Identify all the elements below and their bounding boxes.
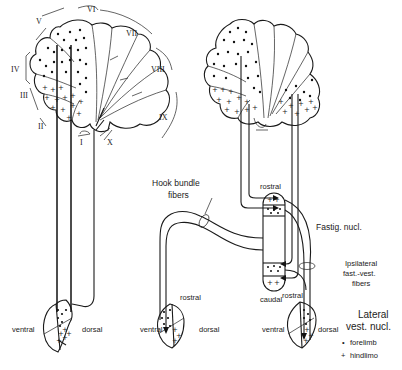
svg-text:+: +	[274, 279, 280, 287]
svg-text:+: +	[294, 110, 300, 118]
legend-hindlimb-label: hindlimo	[350, 351, 378, 360]
svg-text:+: +	[278, 98, 284, 106]
middle-nucleus-rostral-label: rostral	[180, 293, 201, 302]
svg-text:+: +	[66, 330, 72, 338]
lobule-IV-label: IV	[11, 65, 20, 74]
svg-text:+: +	[288, 102, 294, 110]
lateral-vest-label-line2: vest. nucl.	[346, 321, 391, 332]
right-nucleus-dorsal-label: dorsal	[318, 325, 339, 334]
svg-text:+: +	[44, 94, 50, 102]
lobule-VII-label: VII	[126, 29, 137, 38]
svg-text:+: +	[312, 104, 318, 112]
figure: ++ ++ ++ ++ ++ ++ + V VI VII VIII IX IV …	[0, 0, 402, 370]
middle-vestibular-nucleus: ++ + rostral ventral dorsal	[140, 293, 220, 348]
hook-bundle-label-line2: fibers	[168, 190, 189, 200]
fastigial-nucleus: ++ ++ rostral caudal Fastig. nucl.	[260, 182, 362, 304]
svg-text:+: +	[172, 337, 178, 345]
lobule-III-label: III	[20, 91, 28, 100]
svg-text:+: +	[234, 108, 240, 116]
lobule-X-label: X	[107, 138, 113, 147]
ipsilateral-label-line1: Ipsilateral	[345, 259, 377, 268]
legend-hindlimb-symbol: +	[341, 351, 346, 360]
svg-text:+: +	[226, 98, 232, 106]
legend-forelimb-symbol: •	[342, 338, 345, 347]
svg-text:+: +	[267, 196, 273, 204]
svg-text:+: +	[220, 86, 226, 94]
svg-text:+: +	[252, 104, 258, 112]
svg-text:+: +	[267, 279, 273, 287]
fastigial-rostral-label: rostral	[260, 182, 281, 191]
middle-nucleus-ventral-label: ventral	[140, 325, 163, 334]
svg-text:+: +	[50, 104, 56, 112]
svg-text:+: +	[212, 86, 218, 94]
svg-text:+: +	[58, 84, 64, 92]
right-cerebellum: ++ ++ ++ ++ ++ + ++ ++ ++ ++	[204, 20, 319, 131]
right-nucleus-rostral-label: rostral	[282, 291, 303, 300]
legend-forelimb-label: forelimb	[350, 338, 377, 347]
svg-text:+: +	[76, 110, 82, 118]
hook-bundle-fibers: Hook bundle fibers	[152, 178, 263, 334]
diagram-canvas: ++ ++ ++ ++ ++ ++ + V VI VII VIII IX IV …	[0, 0, 402, 370]
right-projection-fibers	[241, 56, 298, 281]
fastigial-caudal-label: caudal	[260, 295, 282, 304]
hindlimb-plus-left: ++ ++ ++ ++ ++ ++ +	[42, 84, 84, 122]
svg-text:+: +	[282, 108, 288, 116]
middle-nucleus-dorsal-label: dorsal	[199, 325, 220, 334]
svg-text:+: +	[50, 86, 56, 94]
left-cerebellum: ++ ++ ++ ++ ++ ++ + V VI VII VIII IX IV …	[11, 5, 177, 147]
svg-text:+: +	[308, 332, 314, 340]
lobule-I-label: I	[80, 138, 83, 147]
svg-text:+: +	[216, 96, 222, 104]
svg-text:+: +	[303, 337, 309, 345]
ipsilateral-label-line3: fibers	[352, 279, 371, 288]
svg-text:+: +	[274, 196, 280, 204]
lobule-II-label: II	[38, 122, 44, 131]
lateral-vest-label-line1: Lateral	[358, 309, 389, 320]
right-nucleus-ventral-label: ventral	[262, 325, 285, 334]
svg-text:+: +	[62, 94, 68, 102]
svg-text:+: +	[304, 106, 310, 114]
legend: • forelimb + hindlimo	[341, 338, 378, 360]
left-nucleus-ventral-label: ventral	[12, 325, 35, 334]
lobule-V-label: V	[36, 17, 42, 26]
ipsilateral-label-line2: fast.-vest.	[343, 269, 376, 278]
lobule-VIII-label: VIII	[151, 65, 165, 74]
svg-text:+: +	[78, 98, 84, 106]
svg-text:+: +	[42, 84, 48, 92]
lobule-VI-label: VI	[87, 5, 96, 14]
hindlimb-plus-right: ++ ++ ++ ++ ++ + ++ ++ ++ ++	[212, 86, 318, 118]
lobule-IX-label: IX	[159, 113, 168, 122]
svg-text:+: +	[228, 88, 234, 96]
lateral-vestibular-label: Lateral vest. nucl.	[346, 309, 391, 332]
fastigial-nucleus-label: Fastig. nucl.	[316, 222, 362, 232]
svg-text:+: +	[60, 106, 66, 114]
hook-bundle-label-line1: Hook bundle	[152, 178, 200, 188]
left-nucleus-dorsal-label: dorsal	[82, 325, 103, 334]
svg-text:+: +	[224, 106, 230, 114]
